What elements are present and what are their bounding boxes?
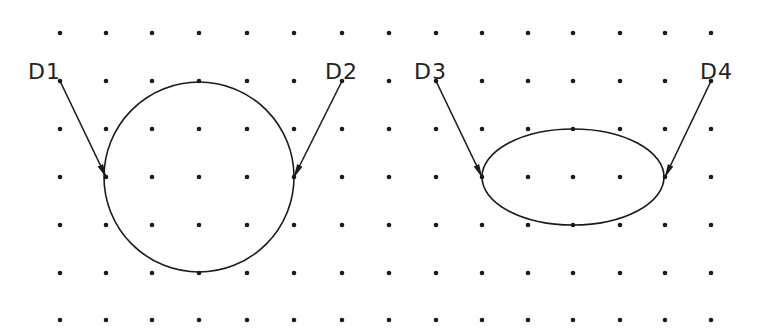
grid-dot	[104, 79, 109, 84]
grid-dot	[618, 31, 623, 36]
grid-dot	[245, 223, 250, 228]
grid-dot	[340, 175, 345, 180]
grid-dot	[480, 127, 485, 132]
grid-dot	[434, 127, 439, 132]
grid-dot	[197, 318, 202, 323]
grid-dot	[197, 127, 202, 132]
grid-dot	[197, 31, 202, 36]
grid-dot	[434, 271, 439, 276]
grid-dot	[618, 79, 623, 84]
grid-dot	[245, 271, 250, 276]
grid-dot	[340, 271, 345, 276]
grid-dot	[150, 31, 155, 36]
pick-labels-layer: D1D2D3D4	[28, 59, 733, 84]
grid-dot	[104, 271, 109, 276]
grid-dot	[58, 127, 63, 132]
grid-dot	[387, 31, 392, 36]
grid-dot	[709, 223, 714, 228]
grid-dot	[663, 127, 668, 132]
grid-dot	[480, 223, 485, 228]
pick-label-d2: D2	[325, 59, 358, 84]
grid-dot	[150, 318, 155, 323]
shapes-layer	[104, 82, 664, 272]
grid-dot	[292, 79, 297, 84]
grid-dot	[618, 318, 623, 323]
grid-dot	[663, 31, 668, 36]
grid-dot	[526, 79, 531, 84]
grid-dot	[709, 175, 714, 180]
grid-dot	[663, 79, 668, 84]
grid-dot	[104, 31, 109, 36]
grid-dot	[709, 31, 714, 36]
grid-dot	[618, 271, 623, 276]
grid-dot	[663, 223, 668, 228]
grid-dot	[709, 271, 714, 276]
grid-dot	[387, 223, 392, 228]
grid-dot	[104, 223, 109, 228]
grid-dot	[526, 127, 531, 132]
grid-dot	[387, 318, 392, 323]
grid-dot	[197, 223, 202, 228]
grid-dot	[104, 318, 109, 323]
pick-arrow-d4	[665, 81, 711, 177]
grid-dot	[58, 175, 63, 180]
pick-label-d3: D3	[414, 59, 447, 84]
grid-dot	[245, 175, 250, 180]
grid-dot	[340, 31, 345, 36]
grid-dot	[434, 223, 439, 228]
grid-dot	[434, 31, 439, 36]
grid-dot	[480, 318, 485, 323]
grid-dot	[58, 223, 63, 228]
grid-dot	[480, 31, 485, 36]
grid-dot	[387, 127, 392, 132]
grid-dot	[526, 31, 531, 36]
grid-dot	[292, 271, 297, 276]
grid-dot	[480, 79, 485, 84]
grid-dot	[150, 127, 155, 132]
grid-dot	[571, 175, 576, 180]
grid-dot	[245, 31, 250, 36]
grid-dot	[245, 318, 250, 323]
grid-dot	[150, 175, 155, 180]
grid-dot	[618, 223, 623, 228]
grid-dot	[292, 127, 297, 132]
grid-dot	[663, 318, 668, 323]
grid-dot	[292, 31, 297, 36]
grid-dot	[709, 127, 714, 132]
grid-dot	[526, 271, 531, 276]
grid-dot	[526, 223, 531, 228]
grid-dot	[150, 79, 155, 84]
grid-dot	[571, 271, 576, 276]
grid-dot	[340, 318, 345, 323]
grid-dots	[58, 31, 714, 323]
grid-dot	[245, 79, 250, 84]
grid-dot	[58, 31, 63, 36]
grid-dot	[150, 271, 155, 276]
grid-dot	[340, 127, 345, 132]
grid-dot	[709, 318, 714, 323]
grid-dot	[197, 175, 202, 180]
grid-dot	[480, 271, 485, 276]
grid-dot	[571, 318, 576, 323]
grid-dot	[292, 223, 297, 228]
grid-dot	[104, 127, 109, 132]
grid-dot	[387, 79, 392, 84]
grid-dot	[245, 127, 250, 132]
grid-dot	[340, 223, 345, 228]
grid-dot	[526, 175, 531, 180]
grid-dot	[58, 318, 63, 323]
pick-arrow-d1	[60, 81, 106, 177]
pick-arrow-d3	[436, 81, 482, 177]
pick-label-d1: D1	[28, 59, 61, 84]
grid-dot	[150, 223, 155, 228]
pick-arrows-layer	[60, 81, 711, 177]
grid-dot	[571, 79, 576, 84]
grid-dot	[292, 318, 297, 323]
grid-dot	[434, 318, 439, 323]
grid-dot	[618, 175, 623, 180]
grid-dot	[434, 175, 439, 180]
grid-dot	[663, 271, 668, 276]
grid-dot	[571, 31, 576, 36]
pick-label-d4: D4	[700, 59, 733, 84]
grid-dot	[387, 175, 392, 180]
